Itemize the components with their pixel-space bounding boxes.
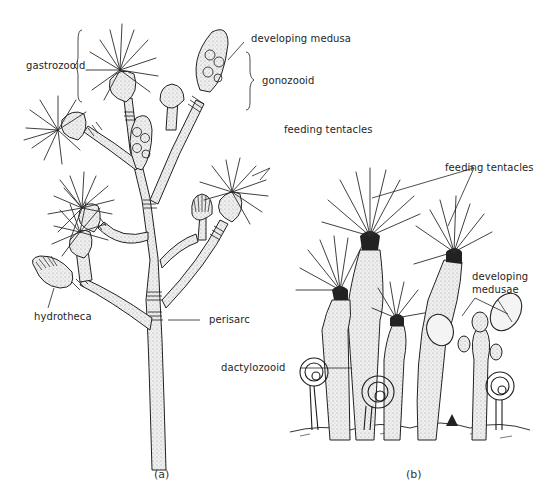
label-feeding-tentacles-a: feeding tentacles <box>284 124 373 136</box>
panel-label-a: (a) <box>154 468 169 481</box>
colony-b <box>290 168 530 440</box>
label-gonozooid: gonozooid <box>262 75 314 87</box>
label-developing-medusae-1: developing <box>472 271 528 283</box>
panel-label-b: (b) <box>406 468 422 481</box>
label-developing-medusae-2: medusae <box>472 284 519 296</box>
label-gastrozooid: gastrozooid <box>26 60 85 72</box>
label-hydrotheca: hydrotheca <box>34 311 92 323</box>
label-perisarc: perisarc <box>209 314 250 326</box>
colony-a <box>24 24 268 470</box>
label-feeding-tentacles-b: feeding tentacles <box>445 162 534 174</box>
label-dactylozooid: dactylozooid <box>221 362 286 374</box>
label-developing-medusa: developing medusa <box>251 33 351 45</box>
